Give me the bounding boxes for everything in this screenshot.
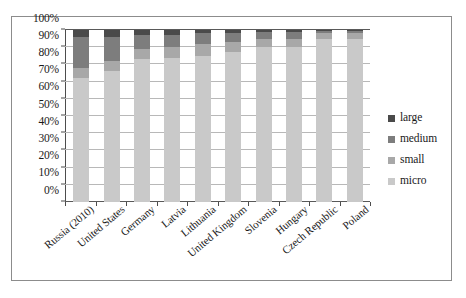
stacked-bar[interactable] xyxy=(104,30,120,202)
y-axis-tick-label: 90% xyxy=(39,30,59,42)
y-axis-tick xyxy=(61,183,65,184)
bar-segment-micro[interactable] xyxy=(134,59,150,202)
legend-swatch-icon xyxy=(388,136,395,143)
bar-segment-small[interactable] xyxy=(256,39,272,48)
legend-label: small xyxy=(400,154,424,166)
bar-slot xyxy=(96,30,126,202)
y-axis-tick xyxy=(61,46,65,47)
bar-segment-large[interactable] xyxy=(104,30,120,37)
bar-segment-small[interactable] xyxy=(104,61,120,71)
bar-segment-small[interactable] xyxy=(134,49,150,59)
bar-segment-micro[interactable] xyxy=(256,47,272,202)
y-axis-tick-label: 100% xyxy=(33,13,59,25)
stacked-bar[interactable] xyxy=(256,30,272,202)
bar-slot xyxy=(127,30,157,202)
stacked-bar[interactable] xyxy=(286,30,302,202)
legend-swatch-icon xyxy=(388,178,395,185)
bar-segment-medium[interactable] xyxy=(104,37,120,61)
bar-segment-medium[interactable] xyxy=(225,33,241,42)
y-axis-tick xyxy=(61,132,65,133)
bar-segment-medium[interactable] xyxy=(164,35,180,47)
bar-segment-micro[interactable] xyxy=(164,58,180,202)
legend-item[interactable]: small xyxy=(388,151,450,169)
bar-segment-micro[interactable] xyxy=(195,56,211,202)
bar-slot xyxy=(66,30,96,202)
y-axis-tick-label: 10% xyxy=(39,168,59,180)
chart-legend: largemediumsmallmicro xyxy=(388,109,450,193)
y-axis-tick xyxy=(61,80,65,81)
stacked-bar[interactable] xyxy=(225,30,241,202)
y-axis-tick-label: 50% xyxy=(39,99,59,111)
bar-series-group xyxy=(66,30,370,202)
bar-segment-small[interactable] xyxy=(195,44,211,56)
bar-segment-small[interactable] xyxy=(73,68,89,78)
y-axis-tick-label: 40% xyxy=(39,116,59,128)
y-axis-tick-label: 80% xyxy=(39,47,59,59)
bar-segment-micro[interactable] xyxy=(286,47,302,202)
stacked-bar[interactable] xyxy=(347,30,363,202)
bar-segment-large[interactable] xyxy=(73,30,89,37)
bar-slot xyxy=(188,30,218,202)
legend-swatch-icon xyxy=(388,115,395,122)
bar-slot xyxy=(309,30,339,202)
legend-item[interactable]: micro xyxy=(388,172,450,190)
stacked-bar[interactable] xyxy=(316,30,332,202)
y-axis-tick-label: 20% xyxy=(39,150,59,162)
y-axis-tick-label: 30% xyxy=(39,133,59,145)
y-axis-tick-label: 0% xyxy=(44,185,59,197)
y-axis-tick xyxy=(61,97,65,98)
bar-segment-micro[interactable] xyxy=(73,78,89,202)
bar-segment-micro[interactable] xyxy=(104,71,120,202)
y-axis-tick xyxy=(61,63,65,64)
plot-area: 0%10%20%30%40%50%60%70%80%90%100% xyxy=(65,30,370,202)
legend-item[interactable]: medium xyxy=(388,130,450,148)
x-axis-label: Poland xyxy=(340,203,371,232)
legend-item[interactable]: large xyxy=(388,109,450,127)
bar-slot xyxy=(340,30,370,202)
bar-slot xyxy=(279,30,309,202)
bar-segment-medium[interactable] xyxy=(256,32,272,39)
bar-segment-micro[interactable] xyxy=(225,52,241,202)
y-axis-tick-label: 60% xyxy=(39,82,59,94)
bar-segment-medium[interactable] xyxy=(286,32,302,39)
bar-segment-micro[interactable] xyxy=(316,39,332,202)
bar-segment-micro[interactable] xyxy=(347,39,363,202)
legend-label: micro xyxy=(400,175,426,187)
y-axis-tick xyxy=(61,29,65,30)
bar-segment-small[interactable] xyxy=(164,47,180,57)
bar-slot xyxy=(248,30,278,202)
bar-slot xyxy=(218,30,248,202)
bar-segment-small[interactable] xyxy=(286,39,302,48)
y-axis-tick xyxy=(61,149,65,150)
legend-swatch-icon xyxy=(388,157,395,164)
bar-segment-small[interactable] xyxy=(225,42,241,52)
bar-slot xyxy=(157,30,187,202)
y-axis-tick xyxy=(61,166,65,167)
bar-segment-medium[interactable] xyxy=(195,33,211,43)
stacked-bar[interactable] xyxy=(134,30,150,202)
stacked-bar[interactable] xyxy=(73,30,89,202)
legend-label: medium xyxy=(400,133,437,145)
bar-segment-medium[interactable] xyxy=(73,37,89,68)
x-axis-label: Slovenia xyxy=(242,203,279,236)
x-axis-labels: Russia (2010)United StatesGermanyLatviaL… xyxy=(66,203,371,281)
legend-label: large xyxy=(400,112,422,124)
y-axis-tick-label: 70% xyxy=(39,64,59,76)
chart-frame: 0%10%20%30%40%50%60%70%80%90%100% Russia… xyxy=(11,16,452,281)
stacked-bar[interactable] xyxy=(195,30,211,202)
stacked-bar[interactable] xyxy=(164,30,180,202)
bar-segment-medium[interactable] xyxy=(134,35,150,49)
y-axis-tick xyxy=(61,115,65,116)
